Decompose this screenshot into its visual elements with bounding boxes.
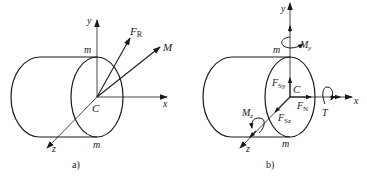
force-FN-label: FN: [296, 100, 308, 113]
force-FR-label: FR: [129, 25, 143, 39]
y-axis-label-b: y: [280, 3, 286, 14]
axes-a: [47, 20, 167, 148]
cylinder-outline-a: [11, 57, 97, 137]
moment-M-arrow: [97, 47, 160, 97]
torque-T-label: T: [322, 107, 329, 118]
section-label-bottom-b: m: [282, 138, 289, 149]
force-FR-arrow: [97, 38, 130, 97]
vectors-a: [97, 38, 160, 97]
y-axis-label-a: y: [86, 15, 92, 26]
x-axis-label-b: x: [353, 95, 359, 106]
origin-label-a: C: [92, 102, 100, 114]
z-axis-label-a: z: [51, 143, 56, 154]
panel-b: y x z C m m FSy FSz FN My Mz T b): [203, 3, 359, 171]
moment-My-label: My: [299, 39, 312, 52]
internal-forces-diagram: y x z C m m FR M a): [0, 0, 367, 181]
caption-b: b): [266, 159, 274, 171]
z-axis-label-b: z: [245, 143, 250, 154]
axes-b: [240, 3, 352, 148]
force-FSz-label: FSz: [277, 112, 291, 125]
torque-T-arc: [323, 87, 333, 104]
moment-M-label: M: [162, 41, 173, 53]
caption-a: a): [72, 159, 80, 171]
force-FSz-arrow: [275, 97, 290, 112]
panel-a: y x z C m m FR M a): [11, 15, 173, 171]
section-label-top-a: m: [84, 44, 91, 55]
section-label-bottom-a: m: [93, 139, 100, 150]
origin-label-b: C: [293, 83, 301, 95]
moment-Mz-vector-head: [250, 131, 256, 137]
cylinder-outline-b: [203, 57, 290, 137]
x-axis-label-a: x: [162, 98, 168, 109]
force-FSy-label: FSy: [271, 77, 286, 90]
moment-Mz-label: Mz: [241, 107, 253, 120]
section-label-top-b: m: [273, 44, 280, 55]
